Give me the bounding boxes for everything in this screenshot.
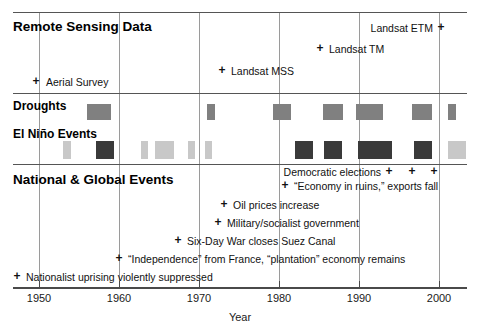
el-nino-bar [324,141,342,159]
marker-democratic-election-2: + [408,165,415,177]
marker-oil-prices: + [220,198,227,210]
x-tick-1980 [279,281,280,287]
el-nino-bar [63,141,71,159]
el-nino-bar [155,141,174,159]
gridline-1960 [119,13,120,287]
event-label-landsat-mss: Landsat MSS [231,65,294,77]
gridline-2000 [439,13,440,287]
marker-six-day-war: + [174,234,181,246]
el-nino-bar [141,141,148,159]
x-tick-label-2000: 2000 [427,292,451,304]
x-tick-label-1990: 1990 [347,292,371,304]
x-tick-2000 [439,281,440,287]
x-tick-label-1980: 1980 [267,292,291,304]
event-economy-in-ruins: “Economy in ruins,” exports fall [294,180,438,192]
event-landsat-tm: Landsat TM [329,43,384,55]
el-nino-bar [96,141,114,159]
drought-bar [207,104,215,120]
rule-remote-sensing-bottom [13,93,467,94]
x-tick-1970 [199,281,200,287]
event-label-six-day-war: Six-Day War closes Suez Canal [187,235,335,247]
event-aerial-survey: Aerial Survey [46,76,108,88]
section-title-droughts: Droughts [13,99,66,113]
marker-military-socialist: + [214,216,221,228]
marker-aerial-survey: + [32,75,39,87]
event-label-democratic-elections: Democratic elections [284,166,381,178]
section-title-remote-sensing: Remote Sensing Data [13,19,152,34]
event-label-independence: “Independence” from France, “plantation”… [128,253,405,265]
event-label-military-socialist: Military/socialist government [227,217,359,229]
drought-bar [356,104,383,120]
event-label-aerial-survey: Aerial Survey [46,76,108,88]
el-nino-bar [358,141,392,159]
event-military-socialist: Military/socialist government [227,217,359,229]
x-tick-label-1950: 1950 [27,292,51,304]
x-tick-label-1960: 1960 [107,292,131,304]
x-tick-1960 [119,281,120,287]
event-landsat-etm: Landsat ETM [371,22,433,34]
marker-landsat-etm: + [437,21,444,33]
event-six-day-war: Six-Day War closes Suez Canal [187,235,335,247]
section-title-el-nino: El Niño Events [13,127,97,141]
timeline-chart: Remote Sensing Data Landsat ETM + + Land… [0,0,480,330]
marker-democratic-election-3: + [430,165,437,177]
drought-bar [448,104,456,120]
gridline-1950 [39,13,40,287]
event-democratic-elections: Democratic elections [284,166,381,178]
el-nino-bar [295,141,313,159]
event-label-economy-in-ruins: “Economy in ruins,” exports fall [294,180,438,192]
rule-top [13,12,467,13]
el-nino-bar [188,141,195,159]
section-title-national-global: National & Global Events [13,172,174,187]
marker-landsat-tm: + [316,42,323,54]
x-axis-line [13,287,467,289]
x-tick-label-1970: 1970 [187,292,211,304]
drought-bar [412,104,432,120]
event-oil-prices: Oil prices increase [233,199,319,211]
drought-bar [273,104,291,120]
marker-independence: + [115,252,122,264]
marker-landsat-mss: + [218,64,225,76]
event-label-oil-prices: Oil prices increase [233,199,319,211]
x-tick-1950 [39,281,40,287]
el-nino-bar [448,141,466,159]
el-nino-bar [414,141,432,159]
event-independence: “Independence” from France, “plantation”… [128,253,405,265]
el-nino-bar [205,141,212,159]
event-label-landsat-etm: Landsat ETM [371,22,433,34]
rule-climate-bottom [13,164,467,165]
marker-nationalist-uprising: + [13,270,20,282]
drought-bar [323,104,343,120]
marker-economy-in-ruins: + [281,179,288,191]
drought-bar [87,104,111,120]
marker-democratic-election-1: + [385,165,392,177]
event-landsat-mss: Landsat MSS [231,65,294,77]
x-axis-title: Year [0,311,480,323]
x-tick-1990 [359,281,360,287]
event-label-landsat-tm: Landsat TM [329,43,384,55]
